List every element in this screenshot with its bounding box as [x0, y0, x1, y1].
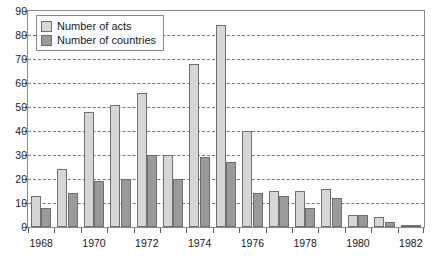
x-tick-mark: [107, 228, 108, 233]
y-tick-label: 90: [5, 6, 27, 16]
bar-countries-1974: [200, 157, 210, 227]
bar-acts-1971: [110, 105, 120, 227]
bar-countries-1972: [147, 155, 157, 227]
bar-countries-1969: [68, 193, 78, 227]
x-tick-label-1972: 1972: [135, 237, 158, 249]
x-tick-mark: [398, 228, 399, 233]
x-tick-mark: [186, 228, 187, 233]
bar-acts-1982: [401, 225, 411, 227]
bar-countries-1975: [226, 162, 236, 227]
x-axis: 19681970197219741976197819801982: [27, 228, 425, 264]
y-tick-label: 20: [5, 174, 27, 184]
bar-countries-1979: [332, 198, 342, 227]
x-tick-mark: [81, 228, 82, 233]
bar-countries-1980: [358, 215, 368, 227]
bar-acts-1978: [295, 191, 305, 227]
x-tick-label-1982: 1982: [399, 237, 422, 249]
x-tick-label-1980: 1980: [346, 237, 369, 249]
x-tick-mark: [239, 228, 240, 233]
legend-item-countries: Number of countries: [41, 33, 156, 47]
x-tick-mark: [371, 228, 372, 233]
bar-countries-1977: [279, 196, 289, 227]
x-tick-mark: [134, 228, 135, 233]
y-tick-label: 50: [5, 102, 27, 112]
bar-acts-1970: [84, 112, 94, 227]
bar-countries-1973: [173, 179, 183, 227]
y-tick-label: 10: [5, 198, 27, 208]
y-tick-label: 40: [5, 126, 27, 136]
x-tick-label-1968: 1968: [30, 237, 53, 249]
y-tick-label: 0: [5, 222, 27, 232]
x-tick-mark: [292, 228, 293, 233]
x-tick-label-1976: 1976: [241, 237, 264, 249]
bar-acts-1976: [242, 131, 252, 227]
y-tick-label: 60: [5, 78, 27, 88]
bar-acts-1969: [57, 169, 67, 227]
x-tick-label-1978: 1978: [294, 237, 317, 249]
bar-chart: 0102030405060708090 19681970197219741976…: [0, 0, 443, 264]
x-tick-mark: [266, 228, 267, 233]
bar-countries-1982: [411, 225, 421, 227]
x-tick-label-1970: 1970: [82, 237, 105, 249]
x-tick-mark: [345, 228, 346, 233]
bar-acts-1973: [163, 155, 173, 227]
x-tick-mark: [160, 228, 161, 233]
bar-acts-1972: [137, 93, 147, 227]
x-tick-mark: [213, 228, 214, 233]
legend-label-countries: Number of countries: [57, 34, 156, 47]
bar-acts-1979: [321, 189, 331, 227]
x-tick-mark: [28, 228, 29, 233]
bar-countries-1978: [305, 208, 315, 227]
bar-acts-1981: [374, 217, 384, 227]
bar-countries-1981: [385, 222, 395, 227]
legend-label-acts: Number of acts: [57, 20, 132, 33]
x-tick-mark: [423, 228, 424, 233]
bar-countries-1971: [121, 179, 131, 227]
bar-acts-1974: [189, 64, 199, 227]
bar-countries-1976: [253, 193, 263, 227]
chart-legend: Number of acts Number of countries: [36, 15, 164, 51]
bar-acts-1968: [31, 196, 41, 227]
bar-acts-1980: [348, 215, 358, 227]
y-tick-label: 30: [5, 150, 27, 160]
x-tick-mark: [318, 228, 319, 233]
bar-countries-1968: [41, 208, 51, 227]
x-tick-label-1974: 1974: [188, 237, 211, 249]
bar-countries-1970: [94, 181, 104, 227]
x-tick-mark: [54, 228, 55, 233]
y-tick-label: 80: [5, 30, 27, 40]
y-tick-label: 70: [5, 54, 27, 64]
y-axis: 0102030405060708090: [0, 10, 27, 228]
legend-swatch-icon-countries: [41, 35, 52, 46]
bar-acts-1975: [216, 25, 226, 227]
bar-acts-1977: [269, 191, 279, 227]
legend-swatch-icon-acts: [41, 21, 52, 32]
legend-item-acts: Number of acts: [41, 19, 156, 33]
